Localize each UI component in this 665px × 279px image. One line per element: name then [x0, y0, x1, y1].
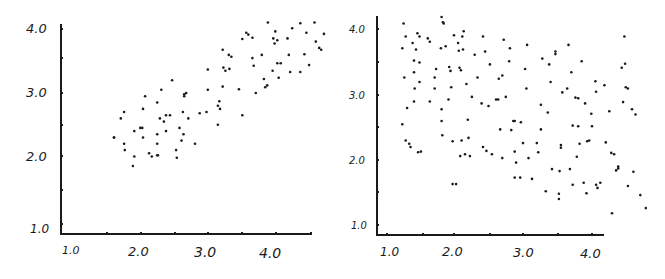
data-point: [144, 95, 147, 98]
data-point: [522, 142, 525, 145]
data-point: [558, 198, 561, 201]
data-point: [207, 68, 210, 71]
data-point: [513, 150, 516, 153]
right-data-points: [401, 16, 647, 215]
data-point: [588, 139, 591, 142]
data-point: [222, 66, 225, 69]
left-x-tick-label-1: 1.0: [62, 244, 80, 257]
right-y-tick-label-4: 4.0: [349, 24, 365, 35]
data-point: [440, 47, 443, 50]
data-point: [411, 42, 414, 45]
data-point: [251, 57, 254, 60]
data-point: [251, 37, 254, 40]
left-y-tick-label-1: 1.0: [30, 222, 49, 236]
left-y-tick-label-4: 4.0: [26, 21, 47, 36]
data-point: [491, 153, 494, 156]
data-point: [513, 176, 516, 179]
data-point: [182, 133, 185, 136]
data-point: [536, 142, 539, 145]
data-point: [402, 22, 405, 25]
data-point: [133, 130, 136, 133]
data-point: [267, 21, 270, 24]
data-point: [620, 66, 623, 69]
data-point: [459, 155, 462, 158]
data-point: [176, 157, 179, 160]
data-point: [178, 127, 181, 130]
data-point: [595, 91, 598, 94]
data-point: [501, 74, 504, 77]
data-point: [453, 34, 456, 37]
left-x-tick-label-2: 2.0: [128, 244, 149, 259]
data-point: [548, 63, 551, 66]
data-point: [451, 183, 454, 186]
data-point: [221, 85, 224, 88]
data-point: [175, 149, 178, 152]
data-point: [480, 102, 483, 105]
data-point: [461, 35, 464, 38]
data-point: [615, 169, 618, 172]
data-point: [418, 61, 421, 64]
data-point: [160, 89, 163, 92]
left-y-tick-label-3: 3.0: [26, 85, 47, 100]
data-point: [156, 143, 159, 146]
data-point: [182, 111, 185, 114]
data-point: [577, 125, 580, 128]
data-point: [499, 128, 502, 131]
data-point: [509, 47, 512, 50]
data-point: [631, 108, 634, 111]
data-point: [123, 111, 126, 114]
data-point: [622, 101, 625, 104]
data-point: [440, 108, 443, 111]
data-point: [585, 192, 588, 195]
data-point: [418, 81, 421, 84]
left-data-points: [113, 21, 326, 167]
data-point: [433, 76, 436, 79]
data-point: [590, 113, 593, 116]
data-point: [458, 66, 461, 69]
data-point: [497, 98, 500, 101]
data-point: [561, 91, 564, 94]
data-point: [266, 84, 269, 87]
data-point: [142, 108, 145, 111]
data-point: [608, 110, 611, 113]
data-point: [228, 54, 231, 57]
data-point: [584, 102, 587, 105]
data-point: [185, 92, 188, 95]
data-point: [485, 150, 488, 153]
data-point: [413, 100, 416, 103]
data-point: [404, 35, 407, 38]
data-point: [501, 157, 504, 160]
data-point: [413, 71, 416, 74]
data-point: [148, 152, 151, 155]
data-point: [482, 146, 485, 149]
data-point: [540, 128, 543, 131]
data-point: [467, 118, 470, 121]
data-point: [551, 168, 554, 171]
data-point: [198, 112, 201, 115]
data-point: [241, 38, 244, 41]
data-point: [299, 22, 302, 25]
left-scatter-svg: 4.0 3.0 2.0 1.0 1.0 2.0 3.0 4.0: [0, 0, 335, 279]
data-point: [460, 69, 463, 72]
right-y-tick-label-3: 3.0: [349, 90, 365, 101]
data-point: [429, 40, 432, 43]
data-point: [113, 136, 116, 139]
data-point: [450, 86, 453, 89]
data-point: [408, 143, 411, 146]
data-point: [465, 83, 468, 86]
data-point: [245, 31, 248, 34]
data-point: [318, 47, 321, 50]
data-point: [404, 139, 407, 142]
data-point: [303, 53, 306, 56]
data-point: [247, 33, 250, 36]
data-point: [554, 53, 557, 56]
data-point: [566, 87, 569, 90]
data-point: [464, 153, 467, 156]
data-point: [261, 54, 264, 57]
data-point: [435, 68, 438, 71]
data-point: [577, 97, 580, 100]
data-point: [217, 124, 220, 127]
right-y-tick-label-2: 2.0: [349, 155, 365, 166]
data-point: [595, 183, 598, 186]
data-point: [527, 157, 530, 160]
